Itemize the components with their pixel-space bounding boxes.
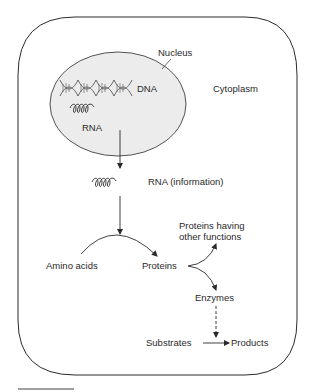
proteins-label: Proteins xyxy=(142,260,177,271)
cytoplasm-label: Cytoplasm xyxy=(213,83,258,94)
amino-acids-label: Amino acids xyxy=(46,260,98,271)
arrow-to-other-functions xyxy=(188,244,216,266)
nucleus xyxy=(50,52,186,156)
dna-label: DNA xyxy=(137,83,158,94)
enzymes-label: Enzymes xyxy=(195,292,234,303)
arrow-amino-to-proteins xyxy=(81,235,157,256)
substrates-label: Substrates xyxy=(146,337,192,348)
rna-info-coil-icon xyxy=(92,178,116,186)
rna-nucleus-label: RNA xyxy=(82,122,103,133)
products-label: Products xyxy=(231,337,269,348)
proteins-other-label-2: other functions xyxy=(179,231,242,242)
proteins-other-label-1: Proteins having xyxy=(179,220,244,231)
nucleus-label: Nucleus xyxy=(158,47,193,58)
cell-diagram: Nucleus DNA RNA Cytoplasm RNA (informati… xyxy=(0,0,311,392)
arrow-to-enzymes xyxy=(188,266,216,290)
rna-info-label: RNA (information) xyxy=(148,176,224,187)
